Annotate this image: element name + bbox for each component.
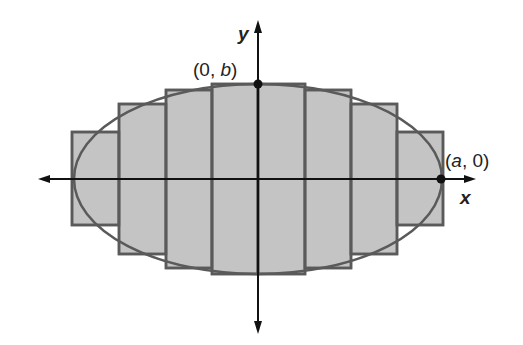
y-axis-up-arrow-icon — [254, 20, 262, 33]
right-vertex-label: (a, 0) — [445, 150, 489, 171]
point-top-vertex — [254, 80, 263, 89]
x-axis-left-arrow-icon — [38, 175, 50, 183]
point-right-vertex — [437, 175, 446, 184]
y-axis-down-arrow-icon — [254, 321, 262, 334]
ellipse-rectangles-diagram: y x (0, b) (a, 0) — [0, 0, 523, 345]
x-axis-label: x — [459, 187, 472, 208]
x-axis-right-arrow-icon — [464, 175, 476, 183]
top-vertex-label: (0, b) — [193, 59, 237, 80]
y-axis-label: y — [237, 23, 250, 44]
